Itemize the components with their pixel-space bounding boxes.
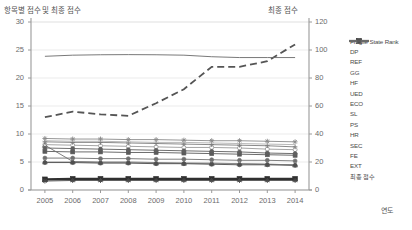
x-tick-2013: 2013 [252,196,282,205]
legend-label: SEC [350,142,362,149]
legend-item-ps[interactable]: PS [348,119,410,129]
series-최종-점수 [45,55,295,58]
legend: Fragile State RankDPREFGGHFUEDECOSLPSHRS… [348,36,410,181]
right-tick-0: 0 [315,185,335,194]
legend-label: EXT [350,162,362,169]
legend-label: REF [350,58,362,65]
x-tick-2009: 2009 [141,196,171,205]
legend-item-ref[interactable]: REF [348,57,410,67]
right-tick-60: 60 [315,101,335,110]
legend-label: ECO [350,100,363,107]
legend-label: HR [350,131,359,138]
legend-item-hf[interactable]: HF [348,78,410,88]
left-tick-0: 0 [6,185,24,194]
right-tick-100: 100 [315,45,335,54]
x-tick-2011: 2011 [197,196,227,205]
x-tick-2010: 2010 [169,196,199,205]
legend-label: 최종 점수 [350,172,375,181]
x-tick-2005: 2005 [30,196,60,205]
left-tick-5: 5 [6,157,24,166]
x-tick-2006: 2006 [58,196,88,205]
legend-item-gg[interactable]: GG [348,67,410,77]
left-tick-20: 20 [6,73,24,82]
x-tick-2012: 2012 [225,196,255,205]
left-tick-15: 15 [6,101,24,110]
legend-item-eco[interactable]: ECO [348,98,410,108]
left-tick-30: 30 [6,17,24,26]
left-tick-10: 10 [6,129,24,138]
x-tick-2008: 2008 [113,196,143,205]
right-tick-80: 80 [315,73,335,82]
legend-item-ext[interactable]: EXT [348,161,410,171]
x-tick-2014: 2014 [280,196,310,205]
legend-item-sl[interactable]: SL [348,109,410,119]
right-tick-120: 120 [315,17,335,26]
legend-label: FE [350,152,358,159]
legend-label: HF [350,79,358,86]
legend-item-ued[interactable]: UED [348,88,410,98]
legend-item-fe[interactable]: FE [348,150,410,160]
series-sl [43,176,298,181]
legend-item-최종-점수[interactable]: 최종 점수 [348,171,410,181]
series-ued [42,136,297,144]
legend-item-sec[interactable]: SEC [348,140,410,150]
chart-container: 항목별 점수 및 최종 점수 최종 점수 연도 051015202530 020… [0,0,412,230]
right-tick-40: 40 [315,129,335,138]
legend-item-dp[interactable]: DP [348,46,410,56]
left-tick-25: 25 [6,45,24,54]
legend-label: SL [350,110,357,117]
right-tick-20: 20 [315,157,335,166]
legend-label: PS [350,121,358,128]
legend-key [348,36,370,46]
legend-label: UED [350,90,363,97]
legend-label: DP [350,48,358,55]
legend-item-hr[interactable]: HR [348,130,410,140]
legend-label: GG [350,69,359,76]
x-tick-2007: 2007 [86,196,116,205]
